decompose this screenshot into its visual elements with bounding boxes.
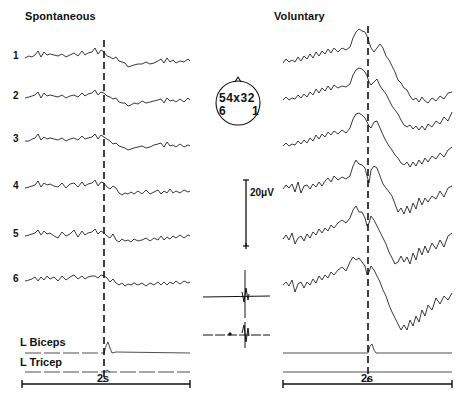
emg-inset — [203, 270, 270, 348]
spontaneous-traces — [25, 48, 190, 286]
time-scale-label-right: 2s — [361, 372, 373, 384]
electrode-map-row1: 54x32 — [219, 91, 255, 105]
panel-title-voluntary: Voluntary — [274, 10, 325, 22]
time-scale-bars — [22, 380, 452, 388]
channel-label-1: 1 — [13, 50, 19, 61]
channel-label-2: 2 — [13, 90, 19, 101]
electrode-map-6: 6 — [219, 104, 226, 118]
trace-spont-4 — [25, 180, 190, 195]
time-scale-label-left: 2s — [97, 372, 109, 384]
amplitude-scale-label: 20μV — [250, 187, 274, 198]
panel-title-spontaneous: Spontaneous — [25, 10, 96, 22]
channel-label-4: 4 — [13, 180, 19, 191]
trace-spont-5 — [25, 229, 190, 242]
figure-graphics — [0, 0, 468, 403]
channel-label-6: 6 — [13, 273, 19, 284]
emg-label-biceps: L Biceps — [20, 336, 66, 348]
trace-spont-1 — [25, 48, 190, 67]
emg-spont-biceps-burst — [104, 342, 190, 353]
emg-traces — [25, 342, 452, 372]
channel-label-3: 3 — [13, 133, 19, 144]
amplitude-scale-bar — [243, 180, 249, 249]
trace-spont-2 — [25, 90, 190, 106]
emg-label-triceps: L Tricep — [20, 356, 62, 368]
electrode-map-1: 1 — [252, 104, 259, 118]
trace-spont-3 — [25, 134, 190, 150]
trace-spont-6 — [25, 275, 190, 286]
channel-label-5: 5 — [13, 228, 19, 239]
